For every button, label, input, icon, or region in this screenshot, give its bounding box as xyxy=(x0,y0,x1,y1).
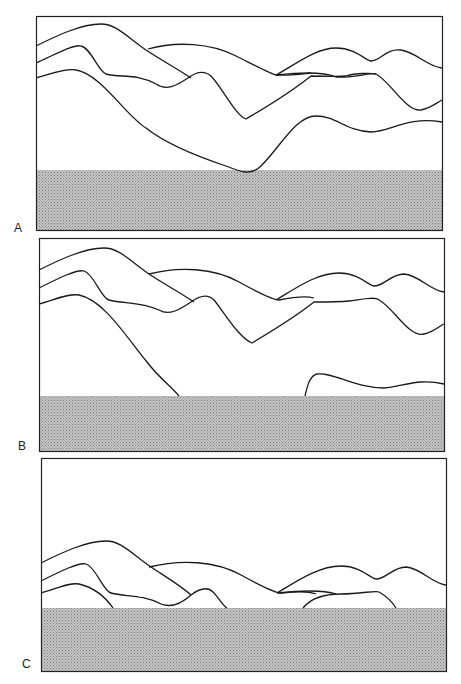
panel-label-c: C xyxy=(22,657,31,671)
ridge-2 xyxy=(148,44,311,75)
panel-label-a: A xyxy=(14,221,22,235)
ridge-1 xyxy=(39,248,194,302)
panel-a-drawing xyxy=(36,16,443,231)
ground-band xyxy=(41,608,447,672)
ridge-3 xyxy=(276,48,442,75)
ground-band xyxy=(36,170,443,231)
ridge-5 xyxy=(188,72,376,119)
panel-c: C xyxy=(41,458,447,672)
ridge-7 xyxy=(303,591,396,608)
panel-b-drawing xyxy=(39,238,445,452)
ridge-6 xyxy=(41,584,113,608)
ridge-1 xyxy=(41,541,191,595)
ridge-4 xyxy=(39,271,191,313)
ridge-2 xyxy=(149,269,314,300)
ridge-5 xyxy=(191,589,227,608)
panel-label-b: B xyxy=(18,439,26,453)
ridge-3 xyxy=(276,273,444,300)
ridge-7 xyxy=(36,70,442,172)
ridge-4 xyxy=(41,564,191,606)
ridge-4 xyxy=(36,46,188,88)
panel-b: B xyxy=(39,238,445,452)
ridge-6 xyxy=(276,73,442,110)
ridge-2 xyxy=(149,562,316,594)
ground-band xyxy=(39,396,445,452)
ridge-7 xyxy=(305,374,444,396)
panel-c-drawing xyxy=(41,458,447,672)
ridge-5 xyxy=(191,296,444,343)
ridge-1 xyxy=(36,24,191,78)
ridge-3 xyxy=(277,566,446,593)
panel-a: A xyxy=(36,16,443,231)
